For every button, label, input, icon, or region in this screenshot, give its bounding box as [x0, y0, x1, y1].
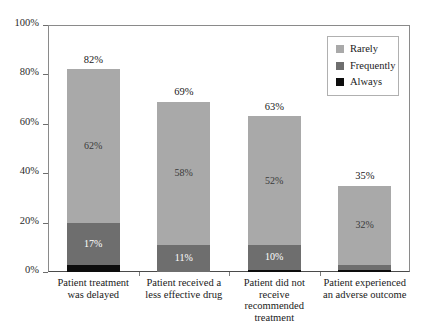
- y-axis-tick-label: 20%: [20, 215, 39, 226]
- x-axis-tick-mark: [320, 272, 321, 276]
- x-axis-category-label: Patient experiencedan adverse outcome: [320, 277, 411, 300]
- bar-segment-rarely[interactable]: 58%: [157, 102, 210, 245]
- y-axis-tick-mark: [43, 173, 48, 174]
- legend-swatch-frequently: [336, 62, 344, 70]
- stacked-bar[interactable]: 10%52%63%: [248, 116, 301, 272]
- x-axis-category-label: Patient treatmentwas delayed: [48, 277, 139, 300]
- legend-label-always: Always: [350, 77, 382, 88]
- stacked-bar-chart: 0%20%40%60%80%100% 17%62%82%11%58%69%10%…: [0, 0, 432, 334]
- y-axis-tick-label: 60%: [20, 116, 39, 127]
- y-axis-tick-mark: [43, 25, 48, 26]
- y-axis-tick-label: 100%: [15, 17, 40, 28]
- bar-total-label: 82%: [53, 55, 134, 66]
- legend-label-rarely: Rarely: [350, 44, 378, 55]
- x-axis-category-label-line: treatment: [229, 312, 320, 324]
- legend-swatch-rarely: [336, 45, 344, 53]
- x-axis-category-label-line: an adverse outcome: [320, 289, 411, 301]
- x-axis-category-label-line: recommended: [229, 300, 320, 312]
- x-axis-category-label-line: Patient received a: [139, 277, 230, 289]
- x-axis-category-label-line: Patient experienced: [320, 277, 411, 289]
- y-axis-tick-label: 80%: [20, 66, 39, 77]
- y-axis-tick-label: 40%: [20, 165, 39, 176]
- bar-total-label: 69%: [143, 87, 224, 98]
- bar-segment-frequently[interactable]: 17%: [67, 223, 120, 265]
- legend-item-always[interactable]: Always: [336, 77, 391, 88]
- bar-segment-rarely[interactable]: 52%: [248, 116, 301, 244]
- bar-segment-value-label: 10%: [248, 252, 301, 262]
- bar-group[interactable]: 10%52%63%: [248, 25, 301, 272]
- bar-segment-frequently[interactable]: [338, 265, 391, 270]
- x-axis-tick-mark: [139, 272, 140, 276]
- bar-segment-value-label: 58%: [157, 168, 210, 178]
- stacked-bar[interactable]: 11%58%69%: [157, 102, 210, 272]
- x-axis-category-label-line: Patient did not: [229, 277, 320, 289]
- stacked-bar[interactable]: 17%62%82%: [67, 69, 120, 272]
- bar-segment-rarely[interactable]: 32%: [338, 186, 391, 265]
- bar-segment-value-label: 32%: [338, 220, 391, 230]
- x-axis-tick-mark: [229, 272, 230, 276]
- bar-total-label: 35%: [324, 171, 405, 182]
- bar-total-label: 63%: [234, 102, 315, 113]
- bar-segment-value-label: 11%: [157, 253, 210, 263]
- x-axis-category-label: Patient received aless effective drug: [139, 277, 230, 300]
- bar-segment-value-label: 17%: [67, 239, 120, 249]
- bar-segment-value-label: 52%: [248, 176, 301, 186]
- bar-segment-frequently[interactable]: 10%: [248, 245, 301, 270]
- x-axis-category-label-line: was delayed: [48, 289, 139, 301]
- stacked-bar[interactable]: 32%35%: [338, 186, 391, 272]
- x-axis-category-label-line: less effective drug: [139, 289, 230, 301]
- legend-swatch-always: [336, 78, 344, 86]
- legend-item-frequently[interactable]: Frequently: [336, 61, 391, 72]
- y-axis-tick-label: 0%: [25, 264, 39, 275]
- bar-group[interactable]: 17%62%82%: [67, 25, 120, 272]
- bar-segment-always[interactable]: [338, 270, 391, 272]
- y-axis-tick-mark: [43, 223, 48, 224]
- bar-group[interactable]: 11%58%69%: [157, 25, 210, 272]
- bar-segment-always[interactable]: [248, 270, 301, 272]
- bar-segment-frequently[interactable]: 11%: [157, 245, 210, 272]
- legend-item-rarely[interactable]: Rarely: [336, 44, 391, 55]
- bar-segment-always[interactable]: [67, 265, 120, 272]
- x-axis-category-label-line: receive: [229, 289, 320, 301]
- legend-label-frequently: Frequently: [350, 61, 396, 72]
- bar-segment-value-label: 62%: [67, 141, 120, 151]
- y-axis-tick-mark: [43, 74, 48, 75]
- legend: Rarely Frequently Always: [327, 36, 399, 96]
- x-axis-category-label-line: Patient treatment: [48, 277, 139, 289]
- bar-segment-rarely[interactable]: 62%: [67, 69, 120, 222]
- y-axis-tick-mark: [43, 272, 48, 273]
- y-axis-tick-mark: [43, 124, 48, 125]
- x-axis-category-label: Patient did notreceiverecommendedtreatme…: [229, 277, 320, 323]
